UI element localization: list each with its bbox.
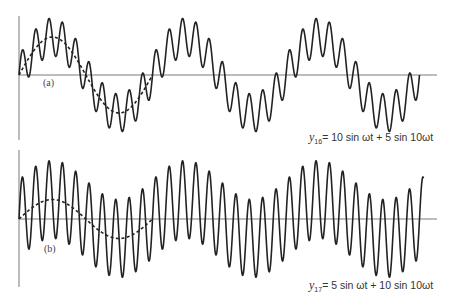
panel-b-equation-subscript: 17 (314, 286, 322, 293)
panel-b (19, 150, 437, 287)
panel-b-label: (b) (44, 243, 56, 254)
panel-a-equation: y16= 10 sin ωt + 5 sin 10ωt (309, 130, 433, 145)
panel-a-equation-rhs: = 10 sin ωt + 5 sin 10ωt (322, 131, 433, 143)
panel-a-equation-subscript: 16 (314, 138, 322, 145)
panel-a (19, 16, 437, 140)
panel-a-label: (a) (43, 77, 54, 88)
waveform-figure (0, 0, 454, 308)
panel-b-equation: y17= 5 sin ωt + 10 sin 10ωt (309, 278, 433, 293)
panel-b-equation-rhs: = 5 sin ωt + 10 sin 10ωt (322, 279, 433, 291)
